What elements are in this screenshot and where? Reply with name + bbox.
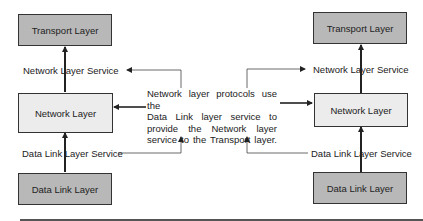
left-data-link-layer-box: Data Link Layer	[18, 173, 112, 205]
left-transport-layer-label: Transport Layer	[32, 25, 99, 36]
description-text: Network layer protocols use the Data Lin…	[147, 88, 277, 146]
description-line: Network layer protocols use the	[147, 88, 277, 111]
left-transport-layer-box: Transport Layer	[18, 14, 112, 46]
right-data-link-layer-box: Data Link Layer	[313, 172, 407, 204]
description-line: service to the Transport layer.	[147, 134, 277, 146]
right-network-layer-label: Network Layer	[330, 105, 391, 116]
left-data-link-layer-label: Data Link Layer	[32, 184, 99, 195]
left-network-layer-service-label: Network Layer Service	[23, 65, 119, 76]
right-data-link-layer-label: Data Link Layer	[327, 183, 394, 194]
description-line: Data Link layer service to	[147, 111, 277, 123]
right-data-link-layer-service-label: Data Link Layer Service	[311, 148, 412, 159]
right-network-layer-service-label: Network Layer Service	[313, 64, 409, 75]
right-network-layer-box: Network Layer	[314, 93, 408, 127]
left-network-layer-box: Network Layer	[18, 93, 113, 133]
right-transport-layer-box: Transport Layer	[313, 12, 407, 44]
left-data-link-layer-service-label: Data Link Layer Service	[22, 148, 123, 159]
description-line: provide the Network layer	[147, 123, 277, 135]
bottom-divider	[20, 219, 423, 221]
right-transport-layer-label: Transport Layer	[327, 23, 394, 34]
left-network-layer-label: Network Layer	[35, 108, 96, 119]
